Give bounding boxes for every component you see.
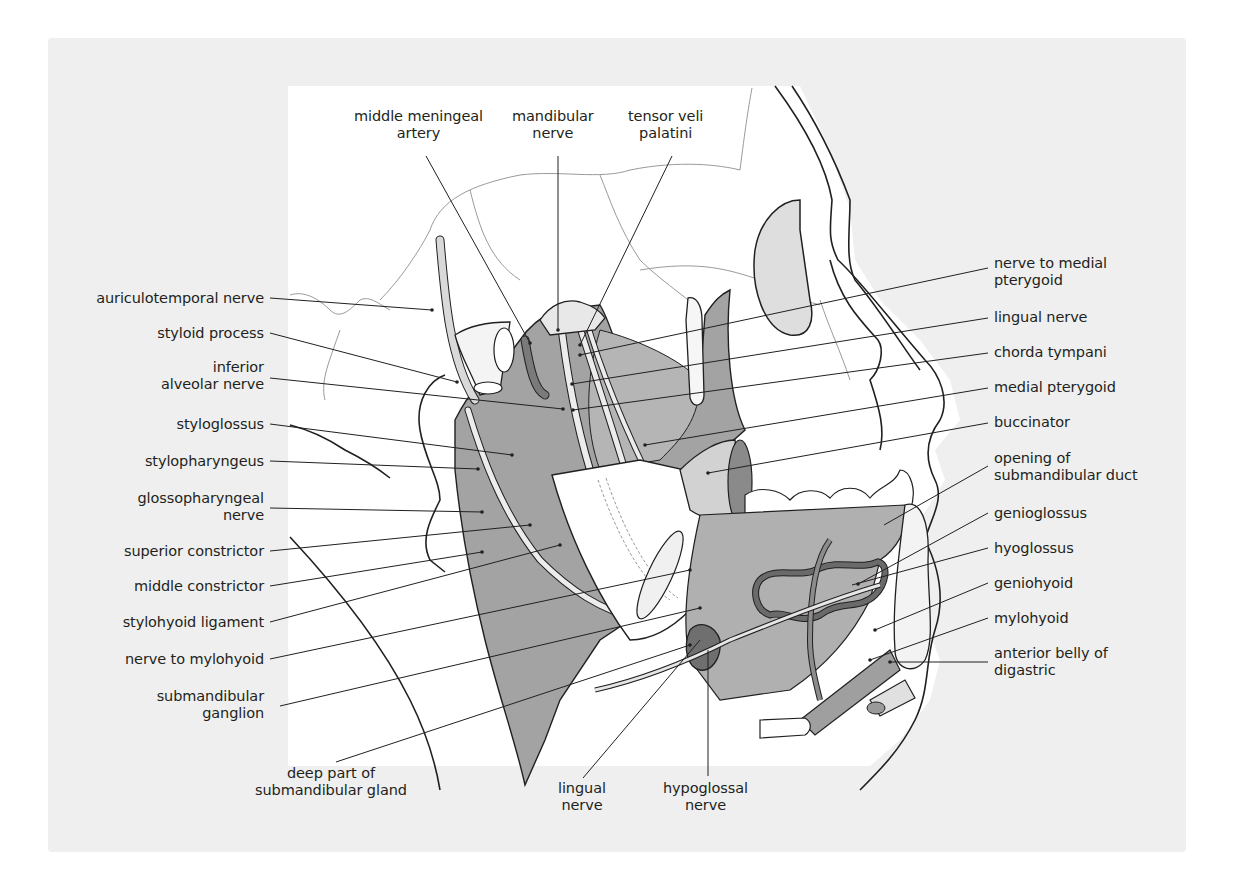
label-line: nerve	[137, 507, 264, 524]
label-line: nerve to medial	[994, 255, 1107, 272]
label-line: lingual	[558, 780, 606, 797]
label-line: stylohyoid ligament	[123, 614, 264, 631]
label-line: nerve to mylohyoid	[125, 651, 264, 668]
label-line: auriculotemporal nerve	[96, 290, 264, 307]
label-line: geniohyoid	[994, 575, 1073, 592]
label-stylohyoid-ligament: stylohyoid ligament	[123, 614, 264, 631]
label-submandibular-ganglion: submandibular ganglion	[157, 688, 264, 722]
label-line: deep part of	[255, 765, 407, 782]
label-mandibular-nerve: mandibular nerve	[512, 108, 594, 142]
label-styloglossus: styloglossus	[177, 416, 264, 433]
label-stylopharyngeus: stylopharyngeus	[145, 453, 264, 470]
label-anterior-belly-of-digastric: anterior belly of digastric	[994, 645, 1108, 679]
label-hypoglossal-nerve: hypoglossal nerve	[663, 780, 748, 814]
label-auriculotemporal-nerve: auriculotemporal nerve	[96, 290, 264, 307]
label-line: pterygoid	[994, 272, 1107, 289]
label-lingual-nerve-bottom: lingual nerve	[558, 780, 606, 814]
label-line: anterior belly of	[994, 645, 1108, 662]
label-styloid-process: styloid process	[157, 325, 264, 342]
label-opening-of-submandibular-duct: opening of submandibular duct	[994, 450, 1138, 484]
label-line: medial pterygoid	[994, 379, 1116, 396]
label-line: nerve	[663, 797, 748, 814]
label-line: inferior	[161, 359, 264, 376]
label-line: styloid process	[157, 325, 264, 342]
label-glossopharyngeal-nerve: glossopharyngeal nerve	[137, 490, 264, 524]
label-geniohyoid: geniohyoid	[994, 575, 1073, 592]
label-line: middle meningeal	[354, 108, 483, 125]
anatomical-illustration	[0, 0, 1234, 880]
label-line: submandibular gland	[255, 782, 407, 799]
label-line: mylohyoid	[994, 610, 1069, 627]
hyoid-bar	[760, 718, 810, 738]
label-nerve-to-medial-pterygoid: nerve to medial pterygoid	[994, 255, 1107, 289]
label-line: ganglion	[157, 705, 264, 722]
label-inferior-alveolar-nerve: inferior alveolar nerve	[161, 359, 264, 393]
label-line: glossopharyngeal	[137, 490, 264, 507]
label-line: digastric	[994, 662, 1108, 679]
label-line: submandibular duct	[994, 467, 1138, 484]
label-mylohyoid: mylohyoid	[994, 610, 1069, 627]
label-line: opening of	[994, 450, 1138, 467]
label-chorda-tympani: chorda tympani	[994, 344, 1107, 361]
label-line: tensor veli	[628, 108, 703, 125]
label-line: stylopharyngeus	[145, 453, 264, 470]
label-line: submandibular	[157, 688, 264, 705]
label-nerve-to-mylohyoid: nerve to mylohyoid	[125, 651, 264, 668]
label-line: hyoglossus	[994, 540, 1074, 557]
label-line: superior constrictor	[124, 543, 264, 560]
label-hyoglossus: hyoglossus	[994, 540, 1074, 557]
label-middle-meningeal-artery: middle meningeal artery	[354, 108, 483, 142]
label-line: genioglossus	[994, 505, 1087, 522]
label-line: lingual nerve	[994, 309, 1087, 326]
label-line: alveolar nerve	[161, 376, 264, 393]
label-line: artery	[354, 125, 483, 142]
label-line: styloglossus	[177, 416, 264, 433]
label-genioglossus: genioglossus	[994, 505, 1087, 522]
label-tensor-veli-palatini: tensor veli palatini	[628, 108, 703, 142]
label-line: palatini	[628, 125, 703, 142]
label-lingual-nerve: lingual nerve	[994, 309, 1087, 326]
label-line: middle constrictor	[134, 578, 264, 595]
label-deep-part-of-submandibular-gland: deep part of submandibular gland	[255, 765, 407, 799]
label-middle-constrictor: middle constrictor	[134, 578, 264, 595]
label-line: buccinator	[994, 414, 1070, 431]
label-line: chorda tympani	[994, 344, 1107, 361]
label-line: nerve	[512, 125, 594, 142]
label-line: hypoglossal	[663, 780, 748, 797]
label-line: mandibular	[512, 108, 594, 125]
label-medial-pterygoid: medial pterygoid	[994, 379, 1116, 396]
label-buccinator: buccinator	[994, 414, 1070, 431]
label-superior-constrictor: superior constrictor	[124, 543, 264, 560]
label-line: nerve	[558, 797, 606, 814]
